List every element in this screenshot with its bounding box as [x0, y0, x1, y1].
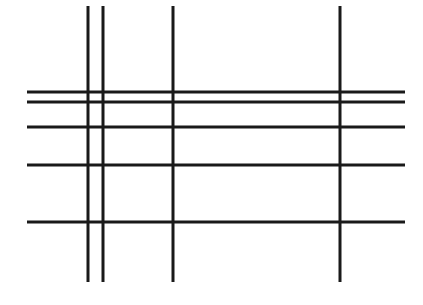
line-grid-diagram	[0, 0, 423, 305]
figure-background	[0, 0, 423, 305]
figure-canvas	[0, 0, 423, 305]
